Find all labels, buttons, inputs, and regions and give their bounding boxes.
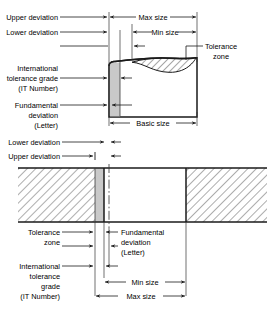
- label-tolerance-zone-hole-line1: Tolerance: [28, 228, 60, 237]
- label-lower-deviation-shaft: Lower deviation: [6, 28, 58, 37]
- label-fundamental-shaft-line3: (Letter): [34, 121, 58, 130]
- dim-min-size-hole: Min size: [105, 278, 185, 287]
- tolerance-diagram: Max size Min size Basic size: [0, 0, 267, 316]
- dim-max-size-shaft: Max size: [110, 13, 196, 22]
- label-it-grade-hole-line2: tolerance: [30, 272, 60, 281]
- label-it-grade-shaft-line1: International: [17, 64, 58, 73]
- hole-right-material: [186, 168, 267, 222]
- dim-max-size-hole: Max size: [96, 292, 185, 301]
- label-fundamental-shaft-line1: Fundamental: [15, 101, 58, 110]
- shaft-fundamental-deviation-band: [110, 63, 120, 117]
- label-tolerance-zone-hole-line2: zone: [44, 238, 60, 247]
- hole-top-leaders: [62, 142, 121, 160]
- label-tolerance-zone-shaft-line1: Tolerance: [205, 42, 237, 51]
- label-it-grade-hole-line4: (IT Number): [20, 292, 60, 301]
- label-lower-deviation-hole: Lower deviation: [8, 138, 60, 147]
- label-upper-deviation-shaft: Upper deviation: [6, 13, 58, 22]
- hole-left-material: [18, 168, 95, 222]
- hole-graphic: [18, 164, 267, 228]
- label-it-grade-hole-line3: grade: [41, 282, 60, 291]
- dim-max-size-shaft-label: Max size: [138, 13, 167, 22]
- label-it-grade-shaft-line2: tolerance grade: [7, 74, 58, 83]
- dim-min-size-shaft-label: Min size: [151, 28, 178, 37]
- dim-max-size-hole-label: Max size: [126, 292, 155, 301]
- label-it-grade-hole-line1: International: [19, 262, 60, 271]
- label-fundamental-hole-line2: deviation: [121, 238, 151, 247]
- diagram-canvas: Max size Min size Basic size: [0, 0, 267, 316]
- label-fundamental-hole-line1: Fundamental: [121, 228, 164, 237]
- dim-min-size-hole-label: Min size: [131, 278, 158, 287]
- label-fundamental-shaft-line2: deviation: [28, 111, 58, 120]
- dim-basic-size-label: Basic size: [136, 119, 169, 128]
- dim-basic-size: Basic size: [110, 119, 196, 128]
- shaft-leaders: [60, 17, 108, 105]
- dim-min-size-shaft: Min size: [133, 28, 196, 37]
- shaft-graphic: [109, 58, 197, 117]
- label-tolerance-zone-shaft-line2: zone: [213, 52, 229, 61]
- label-fundamental-hole-line3: (Letter): [121, 248, 145, 257]
- label-upper-deviation-hole: Upper deviation: [8, 152, 60, 161]
- hole-bottom-leaders: [62, 232, 118, 266]
- hole-tolerance-band: [95, 168, 104, 222]
- label-it-grade-shaft-line3: (IT Number): [18, 84, 58, 93]
